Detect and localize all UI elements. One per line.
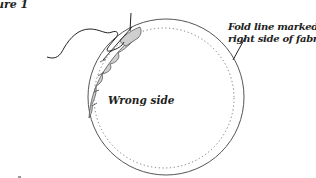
fold-line-label-line1: Fold line marked on [228, 21, 314, 33]
fold-line-label: Fold line marked on right side of fabric [228, 21, 314, 45]
wrong-side-label: Wrong side [108, 94, 174, 106]
fold-line-label-line2: right side of fabric [228, 33, 314, 45]
thread-line [47, 29, 124, 58]
